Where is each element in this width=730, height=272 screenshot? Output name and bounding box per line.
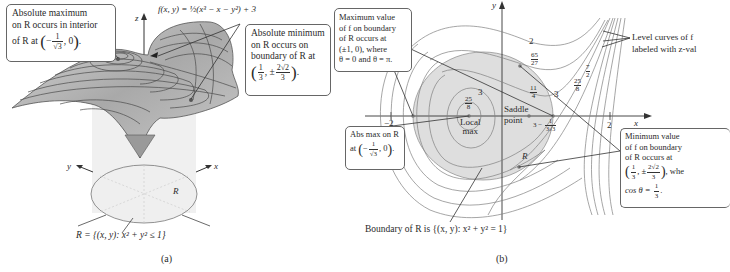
callout-line: on R occurs in interior [12, 20, 110, 32]
saddle-point-label: Saddlepoint [504, 104, 529, 126]
cos-expression: cos θ = [625, 185, 651, 195]
sign: ± [641, 166, 646, 176]
sign: ± [269, 66, 274, 76]
period: . [660, 185, 662, 195]
callout-line: (±1, 0), where [339, 44, 407, 55]
callout-line: of R occurs at [339, 33, 407, 44]
annotation-line: Level curves of f [632, 31, 696, 43]
level-label-7-2: 72 [586, 64, 590, 79]
callout-line: θ = 0 and θ = π. [339, 54, 407, 65]
callout-text: of R at [12, 36, 38, 46]
coord-suffix: , 0 [64, 36, 74, 46]
callout-line: of f on boundary [625, 142, 726, 153]
level-label-3-minus: 3 − 13√3 [533, 118, 557, 133]
callout-abs-max: Abs max on R at (−1√3, 0). [345, 126, 405, 170]
callout-line: Maximum value [339, 12, 407, 23]
boundary-definition: Boundary of R is {(x, y): x² + y² = 1} [365, 224, 507, 234]
fraction: 13 [258, 63, 264, 82]
sign: − [363, 143, 368, 153]
level-label-11-4: 114 [530, 85, 537, 100]
fraction: 2√23 [276, 63, 290, 82]
annotation-line: labeled with z-val [632, 43, 696, 55]
callout-line: of f on boundary [339, 23, 407, 34]
callout-absolute-maximum: Absolute maximum on R occurs in interior… [6, 4, 116, 62]
callout-line: on R occurs on [251, 40, 325, 52]
period: . [392, 143, 394, 153]
x-axis-label: x [634, 118, 638, 128]
caption-a: (a) [161, 253, 172, 264]
callout-line: Absolute minimum [251, 28, 325, 40]
y-axis-label: y [492, 0, 496, 10]
fraction: 1√3 [52, 32, 62, 51]
function-label: f(x, y) = ½(x³ − x − y²) + 3 [158, 4, 256, 14]
y-axis-label: y [67, 161, 71, 171]
callout-line: of R occurs at [625, 152, 726, 163]
level-label-3-a: 3 [478, 87, 483, 97]
x-axis-label: x [214, 161, 218, 171]
level-label-2: 2 [529, 36, 534, 46]
level-curves-annotation: Level curves of f labeled with z-val [632, 31, 696, 55]
callout-absolute-minimum: Absolute minimum on R occurs on boundary… [245, 24, 331, 96]
region-definition: R = {(x, y): x² + y² ≤ 1} [76, 230, 166, 240]
level-label-25-8-right: 258 [574, 78, 581, 93]
callout-text: , whe [666, 166, 684, 176]
level-label-25-8-left: 258 [465, 96, 472, 111]
local-max-label: Localmax [460, 118, 481, 136]
callout-line: Absolute maximum [12, 8, 110, 20]
panel-a-surface-plot: z y x R f(x, y) = ½(x³ − x − y²) + 3 Abs… [0, 0, 360, 272]
callout-line: Minimum value [625, 131, 726, 142]
region-label: R [522, 151, 528, 161]
panel-b-contour-plot: y x −2 2 2 6527 114 3 3 258 258 72 3 − 1… [330, 0, 723, 272]
callout-line: boundary of R at [251, 51, 325, 63]
period: . [297, 66, 299, 76]
period: . [79, 36, 81, 46]
sign: − [46, 36, 51, 46]
caption-b: (b) [496, 253, 508, 264]
tick-pos2: 2 [607, 120, 612, 130]
coord-suffix: , 0 [379, 143, 388, 153]
callout-line: Abs max on R [350, 129, 400, 140]
level-label-3-b: 3 [554, 89, 559, 99]
z-axis-label: z [135, 13, 139, 23]
region-label: R [173, 186, 179, 196]
level-label-65-27: 6527 [531, 52, 538, 67]
callout-min-on-boundary: Minimum value of f on boundary of R occu… [620, 128, 730, 208]
callout-max-on-boundary: Maximum value of f on boundary of R occu… [334, 8, 412, 72]
callout-text: at [350, 143, 356, 153]
